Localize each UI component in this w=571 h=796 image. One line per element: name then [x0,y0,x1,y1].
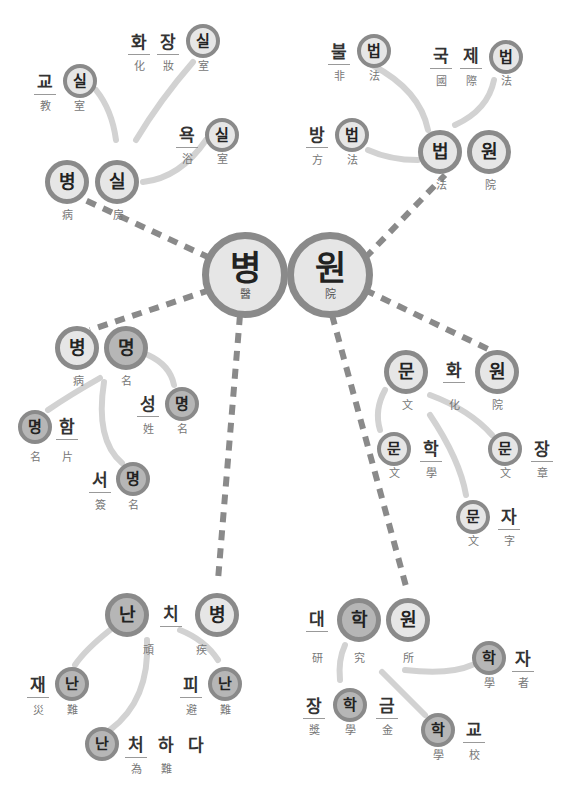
hanja-hwajangsil-1: 化 [128,61,150,72]
syl-seomyeong-1: 서 [89,472,111,493]
hanja-beobwon-2: 院 [479,180,501,191]
hanja-nancheohada-1: 為 [125,764,147,775]
hanja-munjang-2: 章 [531,468,553,479]
node-seomyeong-2[interactable]: 명 [116,462,150,496]
syl-munhak-2: 학 [420,441,442,462]
syl-hakgyo-2: 교 [463,722,485,743]
syl-yoksil-1: 욕 [176,127,198,148]
node-munhak-1[interactable]: 문 [377,432,411,466]
hanja-hwajangsil-3: 室 [192,61,214,72]
hanja-daehakwon-2: 究 [348,653,370,664]
hanja-myeongham-2: 片 [56,452,78,463]
hanja-gyosil-1: 教 [34,101,56,112]
hanja-hakgyo-2: 校 [463,750,485,761]
hanja-hakgyo-1: 學 [427,750,449,761]
hanja-gukjebeop-1: 國 [430,76,452,87]
hanja-jaenan-2: 難 [61,705,83,716]
node-byeongsil-2[interactable]: 실 [95,160,139,204]
syl-nancheohada-4: 다 [185,737,207,757]
hanja-janghakgeum-2: 學 [339,725,361,736]
center-syllable-1: 병 [230,251,261,285]
node-janghakgeum-2[interactable]: 학 [333,688,367,722]
syl-bulbeop-1: 불 [328,44,350,65]
node-munhwawon-3[interactable]: 원 [475,350,519,394]
hanja-janghakgeum-3: 金 [376,725,398,736]
node-bangbeop-2[interactable]: 법 [335,118,369,152]
link-center-nanchibyeong [218,315,240,580]
link-seongmyeong [148,355,174,385]
link-seomyeong [102,382,122,463]
node-daehakwon-2[interactable]: 학 [337,598,381,642]
node-hakja-1[interactable]: 학 [472,641,506,675]
hanja-hwajangsil-2: 妝 [157,61,179,72]
node-hwajangsil-3[interactable]: 실 [186,24,220,58]
hanja-munja-2: 字 [498,536,520,547]
node-yoksil-2[interactable]: 실 [205,118,239,152]
node-gukjebeop-3[interactable]: 법 [489,40,523,74]
hanja-yoksil-1: 浴 [176,154,198,165]
hanja-seongmyeong-1: 姓 [137,424,159,435]
hanja-seongmyeong-2: 名 [171,424,193,435]
syl-daehakwon-1: 대 [306,611,328,632]
hanja-munhwawon-2: 化 [443,400,465,411]
syl-pinan-1: 피 [180,677,202,698]
node-jaenan-2[interactable]: 난 [55,667,89,701]
node-munjang-1[interactable]: 문 [488,432,522,466]
hanja-munhak-2: 學 [420,468,442,479]
node-munja-1[interactable]: 문 [456,500,490,534]
center-node-won[interactable]: 원 院 [287,232,373,318]
link-center-byeongsil [85,200,210,258]
syl-gukjebeop-1: 국 [430,48,452,69]
link-bangbeop [368,150,418,160]
node-nanchibyeong-3[interactable]: 병 [195,593,239,637]
hanja-seomyeong-1: 簽 [89,500,111,511]
node-pinan-2[interactable]: 난 [208,667,242,701]
node-byeongmyeong-2[interactable]: 명 [104,326,148,370]
hanja-gyosil-2: 室 [68,101,90,112]
hanja-munhwawon-3: 院 [486,400,508,411]
link-jaenan [75,630,110,665]
syl-bangbeop-1: 방 [306,127,328,148]
node-gyosil-2[interactable]: 실 [63,64,97,98]
node-myeongham-1[interactable]: 명 [18,410,52,444]
node-beobwon-1[interactable]: 법 [418,130,462,174]
hanja-hakja-2: 者 [512,678,534,689]
hanja-nanchibyeong-2: 頑 [137,645,159,656]
hanja-munhak-1: 文 [383,468,405,479]
node-hakgyo-1[interactable]: 학 [421,713,455,747]
hanja-munja-1: 文 [462,536,484,547]
syl-jaenan-1: 재 [27,677,49,698]
hanja-byeongmyeong-2: 名 [115,376,137,387]
center-hanja-1: 醫 [240,289,251,300]
hanja-seomyeong-2: 名 [122,500,144,511]
center-syllable-2: 원 [315,251,346,285]
syl-hwajangsil-1: 화 [128,34,150,55]
hanja-pinan-2: 難 [214,705,236,716]
link-center-byeongmyeong [90,290,210,330]
syl-gukjebeop-2: 제 [460,48,482,69]
hanja-byeongsil-2: 房 [107,210,129,221]
hanja-daehakwon-3: 所 [397,653,419,664]
link-janghakgeum [340,645,345,680]
hanja-bulbeop-1: 非 [328,71,350,82]
node-daehakwon-3[interactable]: 원 [386,598,430,642]
syl-munja-2: 자 [498,509,520,530]
center-node-byeong[interactable]: 병 醫 [202,232,288,318]
node-seongmyeong-2[interactable]: 명 [165,387,199,421]
syl-nancheohada-2: 처 [125,737,147,758]
node-nancheohada-1[interactable]: 난 [85,727,119,761]
node-bulbeop-2[interactable]: 법 [357,34,391,68]
hanja-yoksil-2: 室 [211,154,233,165]
syl-nancheohada-3: 하 [155,737,177,757]
node-byeongmyeong-1[interactable]: 병 [55,326,99,370]
node-munhwawon-1[interactable]: 문 [384,350,428,394]
node-nanchibyeong-1[interactable]: 난 [105,593,149,637]
hanja-munhwawon-1: 文 [396,400,418,411]
hanja-nancheohada-2: 難 [155,764,177,775]
node-beobwon-2[interactable]: 원 [467,130,511,174]
link-munhak [378,390,385,430]
link-center-munhwawon [365,290,490,350]
syl-hakja-2: 자 [512,651,534,672]
hanja-bangbeop-1: 方 [306,155,328,166]
node-byeongsil-1[interactable]: 병 [45,160,89,204]
